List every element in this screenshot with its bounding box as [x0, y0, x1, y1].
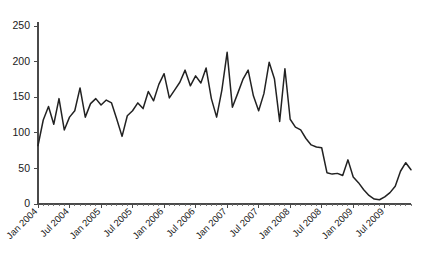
x-tick-label: Jul 2006	[164, 206, 197, 239]
x-axis-group: Jan 2004Jul 2004Jan 2005Jul 2005Jan 2006…	[4, 204, 411, 241]
y-axis-tick-labels: 050100150200250	[12, 19, 30, 209]
chart-container: 050100150200250 Jan 2004Jul 2004Jan 2005…	[0, 0, 426, 266]
y-axis-ticks	[34, 26, 38, 204]
y-tick-label: 250	[12, 19, 30, 31]
x-tick-label: Jan 2006	[130, 206, 165, 241]
y-axis-group: 050100150200250	[12, 19, 38, 209]
x-tick-label: Jan 2005	[67, 206, 102, 241]
x-tick-label: Jan 2008	[256, 206, 291, 241]
x-axis-tick-labels: Jan 2004Jul 2004Jan 2005Jul 2005Jan 2006…	[4, 206, 386, 241]
x-tick-label: Jan 2009	[319, 206, 354, 241]
line-chart: 050100150200250 Jan 2004Jul 2004Jan 2005…	[0, 0, 426, 266]
x-tick-label: Jan 2004	[4, 206, 39, 241]
data-series-group	[38, 52, 411, 199]
y-tick-label: 200	[12, 55, 30, 67]
x-tick-label: Jan 2007	[193, 206, 228, 241]
data-line-series-1	[38, 52, 411, 199]
x-tick-label: Jul 2005	[101, 206, 134, 239]
y-tick-label: 150	[12, 90, 30, 102]
x-tick-label: Jul 2008	[290, 206, 323, 239]
y-tick-label: 50	[18, 162, 30, 174]
x-tick-label: Jul 2004	[38, 206, 71, 239]
y-tick-label: 100	[12, 126, 30, 138]
x-tick-label: Jul 2009	[353, 206, 386, 239]
x-tick-label: Jul 2007	[227, 206, 260, 239]
